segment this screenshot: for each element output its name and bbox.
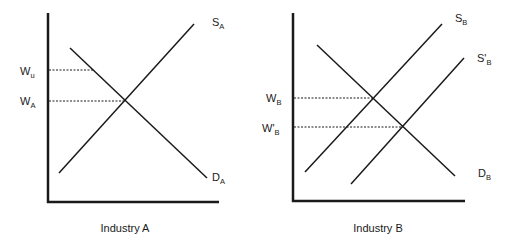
wage-a-label: WA [20, 95, 35, 110]
supply-label-b-shifted: S'B [477, 52, 491, 67]
wage-b-prime-label: W'B [262, 122, 280, 137]
panel-industry-a: Wu WA SA DA Industry A [20, 13, 225, 234]
supply-curve-a [59, 24, 194, 173]
labor-market-diagram: Wu WA SA DA Industry A WB W'B SB S'B DB … [0, 0, 506, 244]
supply-label-b: SB [455, 12, 467, 27]
caption-industry-b: Industry B [353, 222, 403, 234]
demand-label-b: DB [478, 167, 491, 182]
demand-label-a: DA [212, 171, 225, 186]
demand-curve-b [317, 45, 455, 176]
supply-curve-b-shifted [351, 58, 464, 184]
demand-curve-a [70, 48, 207, 178]
wage-b-label: WB [266, 92, 281, 107]
panel-industry-b: WB W'B SB S'B DB Industry B [262, 12, 491, 234]
caption-industry-a: Industry A [101, 222, 151, 234]
wage-u-label: Wu [20, 65, 35, 80]
supply-label-a: SA [212, 16, 224, 31]
